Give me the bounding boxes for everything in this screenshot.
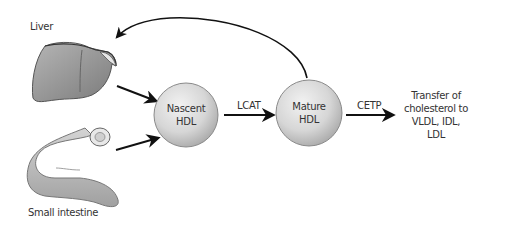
liver-label: Liver <box>30 21 53 33</box>
nascent-hdl-line1: Nascent <box>156 102 216 115</box>
result-line-3: VLDL, IDL, <box>398 115 474 128</box>
mature-to-liver-arrow <box>117 18 307 78</box>
small-intestine-label: Small intestine <box>28 207 98 219</box>
cetp-label: CETP <box>357 100 381 112</box>
lcat-label: LCAT <box>237 100 261 112</box>
mature-hdl-line2: HDL <box>279 113 339 126</box>
hdl-metabolism-diagram: Liver Small intestine Nascent HDL Mature… <box>0 0 509 235</box>
result-line-2: cholesterol to <box>398 102 474 115</box>
mature-hdl-line1: Mature <box>279 100 339 113</box>
small-intestine-icon <box>27 128 118 207</box>
mature-hdl-label: Mature HDL <box>279 100 339 126</box>
intestine-to-nascent-arrow <box>116 138 158 150</box>
result-text: Transfer of cholesterol to VLDL, IDL, LD… <box>398 89 474 141</box>
liver-to-nascent-arrow <box>117 86 156 101</box>
liver-icon <box>32 42 116 101</box>
result-line-1: Transfer of <box>398 89 474 102</box>
result-line-4: LDL <box>398 128 474 141</box>
nascent-hdl-line2: HDL <box>156 115 216 128</box>
nascent-hdl-label: Nascent HDL <box>156 102 216 128</box>
